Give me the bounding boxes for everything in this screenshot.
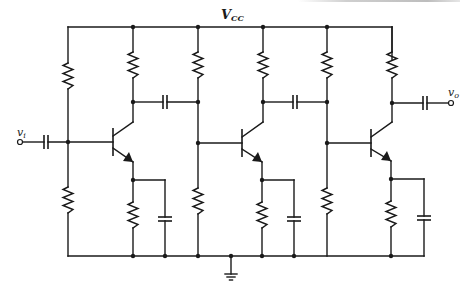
stage1-bias-resistor-bottom <box>63 187 73 213</box>
stage1-emitter-resistor <box>128 202 138 228</box>
vcc-label: VCC <box>221 7 244 23</box>
input-terminal <box>18 135 114 149</box>
stage1-bias-resistor-top <box>63 63 73 89</box>
stage-3 <box>322 25 454 258</box>
stage1-collector-resistor <box>128 52 138 78</box>
stage2-bias-resistor-bottom <box>193 188 203 214</box>
output-node <box>449 101 454 106</box>
stage3-bias-resistor-top <box>322 52 332 78</box>
stage3-transistor <box>371 122 392 201</box>
stage-2 <box>193 25 327 258</box>
stage3-emitter-resistor <box>386 201 396 227</box>
stage3-bias-resistor-bottom <box>322 188 332 214</box>
stage2-transistor <box>242 122 263 202</box>
input-node <box>18 140 23 145</box>
emitter-arrow-icon <box>123 152 133 162</box>
stage2-collector-resistor <box>258 52 268 78</box>
vcc-rail <box>68 27 392 60</box>
stage2-bias-resistor-top <box>193 52 203 78</box>
stage2-emitter-resistor <box>257 202 267 228</box>
output-label: vo <box>448 86 459 100</box>
ground-icon <box>225 254 237 280</box>
stage1-transistor <box>113 122 133 202</box>
input-label: vi <box>17 126 26 140</box>
circuit-schematic: VCC vi vo <box>0 0 470 296</box>
stage3-collector-resistor <box>387 52 397 78</box>
